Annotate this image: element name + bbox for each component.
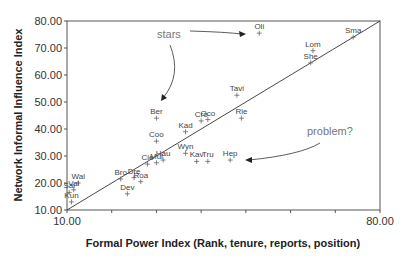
arrowhead-icon xyxy=(161,94,167,101)
arrow-stars-to-oli xyxy=(190,31,242,34)
y-tick-label: 20.00 xyxy=(34,177,62,189)
point-label: Tru xyxy=(202,150,214,159)
data-point: Sma xyxy=(345,26,362,40)
y-tick-label: 30.00 xyxy=(34,150,62,162)
point-label: Tavi xyxy=(230,84,244,93)
reference-diagonal-line xyxy=(67,21,380,210)
data-point: Tavi xyxy=(230,84,244,98)
arrowhead-icon xyxy=(245,157,252,163)
data-point: Rie xyxy=(235,107,248,121)
point-label: Rie xyxy=(235,107,248,116)
point-label: Kun xyxy=(64,191,78,200)
point-label: Lom xyxy=(305,40,321,49)
y-tick-label: 40.00 xyxy=(34,123,62,135)
data-point: Oco xyxy=(201,109,216,123)
y-tick-label: 50.00 xyxy=(34,96,62,108)
data-point: She xyxy=(304,52,319,66)
annotation-stars: stars xyxy=(157,28,181,40)
data-point: Bro xyxy=(114,168,127,182)
arrow-stars-to-ber xyxy=(163,45,175,98)
point-label: Coo xyxy=(149,130,164,139)
y-tick-label: 60.00 xyxy=(34,69,62,81)
point-label: Roa xyxy=(133,171,148,180)
point-label: Cie xyxy=(141,153,154,162)
data-point: Dev xyxy=(120,183,134,197)
y-axis-ticks: 10.0020.0030.0040.0050.0060.0070.0080.00 xyxy=(34,15,67,216)
y-axis-label: Network Informal Influence Index xyxy=(12,28,24,202)
annotation-problem: problem? xyxy=(307,125,353,137)
y-tick-label: 80.00 xyxy=(34,15,62,27)
point-label: She xyxy=(304,52,319,61)
data-points: OliSmaLomSheTaviRieBerCroOcoKadCooWynKav… xyxy=(63,22,361,204)
point-label: Dev xyxy=(120,183,134,192)
y-tick-label: 70.00 xyxy=(34,42,62,54)
point-label: Sal xyxy=(63,181,75,190)
data-point: Coo xyxy=(149,130,164,144)
data-point: Hep xyxy=(223,149,238,163)
point-label: Ber xyxy=(150,107,163,116)
data-point: Cie xyxy=(141,153,154,167)
x-tick-label: 10.00 xyxy=(53,215,81,227)
point-label: Hep xyxy=(223,149,238,158)
data-point: Tru xyxy=(202,150,214,164)
point-label: Kad xyxy=(178,121,192,130)
point-label: Bro xyxy=(114,168,127,177)
arrowhead-icon xyxy=(239,31,246,37)
data-point: Ber xyxy=(150,107,163,121)
arrow-problem-to-hep xyxy=(249,143,320,160)
data-point: Roa xyxy=(133,171,148,185)
data-point: Oli xyxy=(254,22,264,36)
x-tick-label: 80.00 xyxy=(366,215,394,227)
point-label: Oco xyxy=(201,109,216,118)
data-point: Kun xyxy=(64,191,78,205)
x-axis-label: Formal Power Index (Rank, tenure, report… xyxy=(86,237,361,249)
data-point: Kad xyxy=(178,121,192,135)
scatter-chart: 10.0020.0030.0040.0050.0060.0070.0080.00… xyxy=(0,0,406,262)
point-label: Sma xyxy=(345,26,362,35)
x-axis-ticks: 10.0080.00 xyxy=(53,210,394,227)
point-label: Oli xyxy=(254,22,264,31)
